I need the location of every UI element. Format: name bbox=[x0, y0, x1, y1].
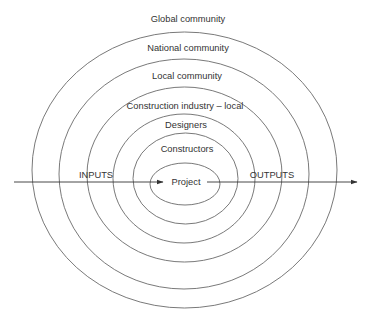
outputs-label: OUTPUTS bbox=[250, 170, 294, 180]
inputs-label: INPUTS bbox=[79, 170, 113, 180]
labels-group: Global communityNational communityLocal … bbox=[127, 14, 244, 187]
label-national-community: National community bbox=[147, 43, 229, 53]
concentric-stakeholder-diagram: Global communityNational communityLocal … bbox=[0, 0, 369, 323]
label-constructors: Constructors bbox=[161, 144, 214, 154]
label-project: Project bbox=[172, 177, 201, 187]
label-designers: Designers bbox=[165, 120, 207, 130]
label-construction-industry-local: Construction industry – local bbox=[127, 101, 244, 111]
label-local-community: Local community bbox=[152, 71, 222, 81]
label-global-community: Global community bbox=[151, 14, 226, 24]
diagram-canvas: Global communityNational communityLocal … bbox=[0, 0, 369, 323]
